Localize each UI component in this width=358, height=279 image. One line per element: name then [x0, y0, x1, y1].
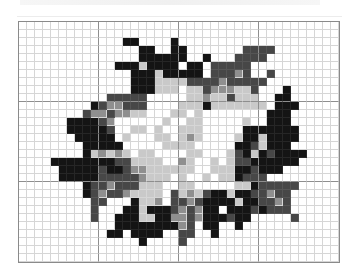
- grid-cell[interactable]: [67, 102, 75, 110]
- grid-cell[interactable]: [179, 166, 187, 174]
- grid-cell[interactable]: [35, 46, 43, 54]
- grid-cell[interactable]: [259, 30, 267, 38]
- grid-cell[interactable]: [211, 54, 219, 62]
- grid-cell[interactable]: [131, 46, 139, 54]
- grid-cell[interactable]: [195, 126, 203, 134]
- grid-cell[interactable]: [171, 134, 179, 142]
- grid-cell[interactable]: [291, 142, 299, 150]
- grid-cell[interactable]: [283, 142, 291, 150]
- grid-cell[interactable]: [227, 38, 235, 46]
- grid-cell[interactable]: [211, 30, 219, 38]
- grid-cell[interactable]: [251, 190, 259, 198]
- grid-cell[interactable]: [179, 110, 187, 118]
- grid-cell[interactable]: [35, 118, 43, 126]
- grid-cell[interactable]: [235, 254, 243, 262]
- grid-cell[interactable]: [43, 118, 51, 126]
- grid-cell[interactable]: [211, 166, 219, 174]
- grid-cell[interactable]: [19, 182, 27, 190]
- grid-cell[interactable]: [75, 78, 83, 86]
- grid-cell[interactable]: [155, 174, 163, 182]
- grid-cell[interactable]: [35, 222, 43, 230]
- grid-cell[interactable]: [75, 134, 83, 142]
- grid-cell[interactable]: [83, 214, 91, 222]
- grid-cell[interactable]: [59, 182, 67, 190]
- grid-cell[interactable]: [35, 142, 43, 150]
- grid-cell[interactable]: [35, 166, 43, 174]
- grid-cell[interactable]: [179, 46, 187, 54]
- grid-cell[interactable]: [163, 54, 171, 62]
- grid-cell[interactable]: [27, 190, 35, 198]
- grid-cell[interactable]: [251, 246, 259, 254]
- grid-cell[interactable]: [227, 94, 235, 102]
- grid-cell[interactable]: [67, 30, 75, 38]
- grid-cell[interactable]: [275, 70, 283, 78]
- grid-cell[interactable]: [291, 230, 299, 238]
- grid-cell[interactable]: [179, 22, 187, 30]
- grid-cell[interactable]: [203, 150, 211, 158]
- grid-cell[interactable]: [115, 214, 123, 222]
- grid-cell[interactable]: [243, 62, 251, 70]
- grid-cell[interactable]: [27, 134, 35, 142]
- grid-cell[interactable]: [195, 102, 203, 110]
- grid-cell[interactable]: [259, 150, 267, 158]
- grid-cell[interactable]: [243, 46, 251, 54]
- grid-cell[interactable]: [251, 46, 259, 54]
- grid-cell[interactable]: [283, 198, 291, 206]
- grid-cell[interactable]: [123, 206, 131, 214]
- grid-cell[interactable]: [307, 22, 315, 30]
- grid-cell[interactable]: [67, 46, 75, 54]
- grid-cell[interactable]: [27, 182, 35, 190]
- grid-cell[interactable]: [267, 22, 275, 30]
- grid-cell[interactable]: [267, 174, 275, 182]
- grid-cell[interactable]: [83, 182, 91, 190]
- grid-cell[interactable]: [315, 110, 323, 118]
- grid-cell[interactable]: [115, 134, 123, 142]
- grid-cell[interactable]: [219, 110, 227, 118]
- grid-cell[interactable]: [75, 54, 83, 62]
- grid-cell[interactable]: [275, 94, 283, 102]
- grid-cell[interactable]: [155, 246, 163, 254]
- grid-cell[interactable]: [147, 238, 155, 246]
- grid-cell[interactable]: [267, 246, 275, 254]
- grid-cell[interactable]: [123, 38, 131, 46]
- grid-cell[interactable]: [251, 230, 259, 238]
- grid-cell[interactable]: [323, 46, 331, 54]
- grid-cell[interactable]: [131, 198, 139, 206]
- grid-cell[interactable]: [99, 166, 107, 174]
- grid-cell[interactable]: [275, 126, 283, 134]
- grid-cell[interactable]: [131, 190, 139, 198]
- grid-cell[interactable]: [131, 86, 139, 94]
- grid-cell[interactable]: [75, 126, 83, 134]
- grid-cell[interactable]: [243, 38, 251, 46]
- grid-cell[interactable]: [51, 166, 59, 174]
- grid-cell[interactable]: [275, 158, 283, 166]
- grid-cell[interactable]: [259, 70, 267, 78]
- grid-cell[interactable]: [283, 190, 291, 198]
- grid-cell[interactable]: [51, 134, 59, 142]
- grid-cell[interactable]: [211, 86, 219, 94]
- grid-cell[interactable]: [131, 246, 139, 254]
- grid-cell[interactable]: [227, 174, 235, 182]
- grid-cell[interactable]: [163, 174, 171, 182]
- grid-cell[interactable]: [235, 230, 243, 238]
- grid-cell[interactable]: [91, 118, 99, 126]
- grid-cell[interactable]: [243, 94, 251, 102]
- grid-cell[interactable]: [179, 222, 187, 230]
- grid-cell[interactable]: [307, 118, 315, 126]
- grid-cell[interactable]: [315, 254, 323, 262]
- grid-cell[interactable]: [139, 46, 147, 54]
- grid-cell[interactable]: [315, 46, 323, 54]
- grid-cell[interactable]: [323, 238, 331, 246]
- grid-cell[interactable]: [51, 150, 59, 158]
- grid-cell[interactable]: [107, 198, 115, 206]
- grid-cell[interactable]: [179, 254, 187, 262]
- grid-cell[interactable]: [275, 166, 283, 174]
- grid-cell[interactable]: [35, 198, 43, 206]
- grid-cell[interactable]: [315, 166, 323, 174]
- grid-cell[interactable]: [235, 102, 243, 110]
- grid-cell[interactable]: [171, 62, 179, 70]
- grid-cell[interactable]: [331, 30, 339, 38]
- grid-cell[interactable]: [19, 22, 27, 30]
- grid-cell[interactable]: [99, 102, 107, 110]
- grid-cell[interactable]: [99, 30, 107, 38]
